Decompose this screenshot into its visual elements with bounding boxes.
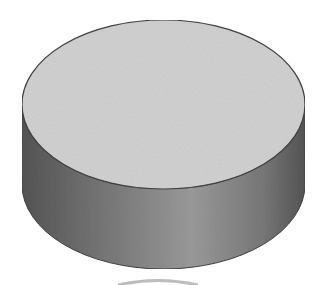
cylinder-top-face	[22, 20, 305, 189]
reflection-arc	[118, 281, 198, 285]
cylinder-diagram	[0, 0, 329, 285]
cylinder-illustration	[0, 0, 329, 285]
